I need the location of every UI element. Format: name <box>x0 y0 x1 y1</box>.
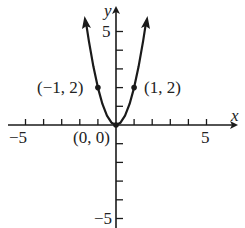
x-tick-label-neg5: −5 <box>9 128 27 147</box>
point-origin <box>113 122 119 128</box>
point-label-1-2: (1, 2) <box>144 78 181 97</box>
point-1-2 <box>131 85 137 91</box>
y-axis-label: y <box>102 1 112 20</box>
y-tick-label-neg5: −5 <box>94 209 112 228</box>
point-neg1-2 <box>95 85 101 91</box>
point-label-neg1-2: (−1, 2) <box>37 78 83 97</box>
point-label-origin: (0, 0) <box>73 128 110 147</box>
x-axis-label: x <box>230 106 239 125</box>
x-tick-label-5: 5 <box>201 128 210 147</box>
parabola-graph: y x 5 −5 −5 5 (−1, 2) (0, 0) (1, 2) <box>0 0 245 228</box>
y-tick-label-5: 5 <box>102 22 111 41</box>
